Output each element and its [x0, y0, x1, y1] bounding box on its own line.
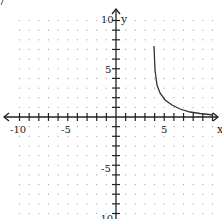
x-tick-label-m10: -10: [10, 124, 26, 135]
coordinate-plane: -10 -5 5 x 10 y 5 -5 -10: [0, 0, 222, 219]
x-tick-label-5: 5: [161, 124, 167, 135]
axes: [4, 9, 218, 219]
y-tick-label-m5: -5: [101, 163, 111, 174]
y-tick-label-10: 10: [101, 14, 114, 25]
y-tick-label-m10: -10: [97, 213, 113, 219]
x-axis-label: x: [217, 123, 222, 136]
function-curve: [154, 46, 213, 115]
corner-mark: [1, 0, 3, 5]
y-tick-label-5: 5: [105, 64, 111, 75]
x-tick-label-m5: -5: [61, 124, 71, 135]
y-axis-label: y: [120, 13, 128, 26]
